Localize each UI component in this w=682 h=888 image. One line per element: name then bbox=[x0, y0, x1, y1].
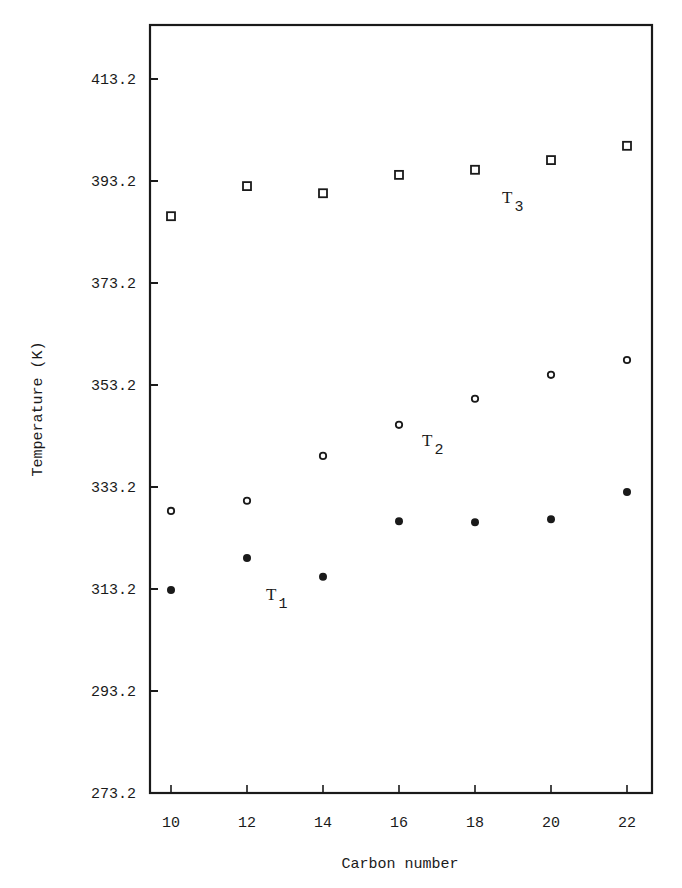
filled-circle-marker bbox=[623, 488, 631, 496]
series-label-main: T bbox=[422, 431, 433, 450]
x-tick-label: 10 bbox=[162, 815, 180, 832]
y-tick-label: 373.2 bbox=[91, 276, 136, 293]
series-label-t3: T3 bbox=[502, 188, 523, 216]
y-tick-label: 313.2 bbox=[91, 582, 136, 599]
y-axis-title: Temperature (K) bbox=[30, 341, 47, 476]
scatter-chart: 273.2293.2313.2333.2353.2373.2393.2413.2… bbox=[0, 0, 682, 888]
filled-circle-marker bbox=[167, 586, 175, 594]
open-square-marker bbox=[319, 189, 327, 197]
filled-circle-marker bbox=[395, 517, 403, 525]
plot-frame bbox=[150, 25, 652, 793]
data-points bbox=[167, 142, 631, 594]
x-tick-label: 20 bbox=[542, 815, 560, 832]
x-axis-title: Carbon number bbox=[341, 856, 458, 873]
y-tick-label: 293.2 bbox=[91, 684, 136, 701]
y-tick-label: 273.2 bbox=[91, 786, 136, 803]
x-tick-label: 18 bbox=[466, 815, 484, 832]
open-square-marker bbox=[547, 156, 555, 164]
open-circle-marker bbox=[168, 508, 174, 514]
y-tick-label: 393.2 bbox=[91, 174, 136, 191]
series-labels: T1T2T3 bbox=[266, 188, 523, 613]
series-t1 bbox=[167, 488, 631, 594]
series-t3 bbox=[167, 142, 631, 220]
x-tick-label: 14 bbox=[314, 815, 332, 832]
open-square-marker bbox=[243, 182, 251, 190]
open-circle-marker bbox=[548, 372, 554, 378]
open-circle-marker bbox=[472, 396, 478, 402]
series-label-main: T bbox=[502, 188, 513, 207]
filled-circle-marker bbox=[243, 554, 251, 562]
open-square-marker bbox=[471, 166, 479, 174]
x-tick-label: 12 bbox=[238, 815, 256, 832]
series-label-subscript: 2 bbox=[434, 442, 443, 459]
filled-circle-marker bbox=[319, 573, 327, 581]
open-circle-marker bbox=[320, 453, 326, 459]
y-tick-label: 353.2 bbox=[91, 378, 136, 395]
open-circle-marker bbox=[396, 422, 402, 428]
series-label-main: T bbox=[266, 585, 277, 604]
open-square-marker bbox=[395, 171, 403, 179]
y-tick-label: 413.2 bbox=[91, 72, 136, 89]
series-t2 bbox=[168, 357, 630, 514]
series-label-t1: T1 bbox=[266, 585, 287, 613]
y-tick-label: 333.2 bbox=[91, 480, 136, 497]
x-tick-label: 22 bbox=[618, 815, 636, 832]
y-axis: 273.2293.2313.2333.2353.2373.2393.2413.2 bbox=[91, 72, 158, 803]
series-label-subscript: 3 bbox=[514, 199, 523, 216]
filled-circle-marker bbox=[547, 515, 555, 523]
series-label-subscript: 1 bbox=[278, 596, 287, 613]
open-square-marker bbox=[623, 142, 631, 150]
open-square-marker bbox=[167, 212, 175, 220]
filled-circle-marker bbox=[471, 518, 479, 526]
open-circle-marker bbox=[244, 498, 250, 504]
open-circle-marker bbox=[624, 357, 630, 363]
series-label-t2: T2 bbox=[422, 431, 443, 459]
x-tick-label: 16 bbox=[390, 815, 408, 832]
